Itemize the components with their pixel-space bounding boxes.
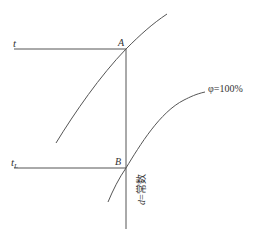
tL-label: tL [11, 156, 18, 170]
point-B-label: B [115, 156, 121, 167]
saturation-curve [108, 92, 205, 202]
upper-curve [56, 14, 167, 143]
d-rest: =常数 [135, 174, 147, 200]
svg-text:d=常数: d=常数 [135, 174, 147, 205]
saturation-curve-label: φ=100% [208, 83, 243, 94]
point-A-label: A [117, 37, 125, 48]
diagram-canvas: t tL A B φ=100% d=常数 [0, 0, 258, 239]
constant-d-label: d=常数 [135, 174, 147, 205]
tL-label-subscript: L [13, 162, 18, 170]
t-label: t [13, 37, 17, 49]
